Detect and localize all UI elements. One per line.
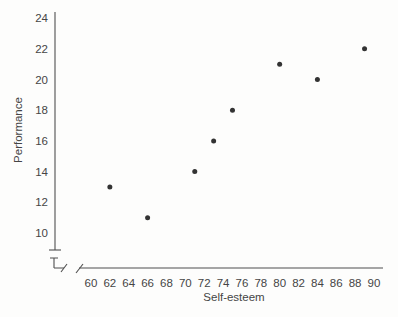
scatter-plot-figure: 6062646668707274767880828486889010121416… bbox=[0, 0, 398, 317]
y-tick-label: 24 bbox=[35, 12, 48, 24]
scatter-plot-canvas: 6062646668707274767880828486889010121416… bbox=[0, 0, 398, 317]
y-tick-label: 12 bbox=[35, 196, 48, 208]
data-point bbox=[362, 46, 367, 51]
x-tick-label: 66 bbox=[141, 277, 154, 289]
y-axis-title: Performance bbox=[12, 97, 24, 163]
x-tick-label: 80 bbox=[273, 277, 286, 289]
data-point bbox=[145, 215, 150, 220]
x-tick-label: 84 bbox=[311, 277, 324, 289]
x-tick-label: 68 bbox=[160, 277, 173, 289]
x-tick-label: 88 bbox=[349, 277, 362, 289]
y-tick-label: 16 bbox=[35, 135, 48, 147]
data-point bbox=[277, 62, 282, 67]
x-tick-label: 64 bbox=[122, 277, 135, 289]
y-tick-label: 14 bbox=[35, 166, 48, 178]
x-tick-label: 70 bbox=[179, 277, 192, 289]
data-point bbox=[211, 138, 216, 143]
x-tick-label: 82 bbox=[292, 277, 305, 289]
x-tick-label: 62 bbox=[103, 277, 116, 289]
data-point bbox=[107, 184, 112, 189]
y-tick-label: 20 bbox=[35, 74, 48, 86]
x-tick-label: 72 bbox=[198, 277, 211, 289]
x-tick-label: 86 bbox=[330, 277, 343, 289]
data-point bbox=[192, 169, 197, 174]
x-tick-label: 74 bbox=[217, 277, 230, 289]
x-tick-label: 60 bbox=[85, 277, 98, 289]
origin-corner-stub bbox=[50, 258, 64, 268]
x-axis-title: Self-esteem bbox=[203, 291, 264, 303]
y-tick-label: 22 bbox=[35, 43, 48, 55]
x-tick-label: 90 bbox=[368, 277, 381, 289]
x-tick-label: 78 bbox=[254, 277, 267, 289]
y-tick-label: 18 bbox=[35, 104, 48, 116]
data-point bbox=[315, 77, 320, 82]
y-tick-label: 10 bbox=[35, 227, 48, 239]
x-tick-label: 76 bbox=[236, 277, 249, 289]
data-point bbox=[230, 108, 235, 113]
